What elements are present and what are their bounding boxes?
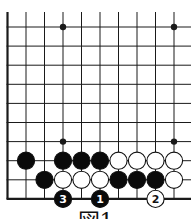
diagram-caption: 図1: [0, 211, 191, 219]
white-stone: [165, 171, 182, 188]
white-stone: [110, 152, 127, 169]
star-point-icon: [171, 24, 177, 30]
move-number: 2: [152, 193, 160, 206]
white-stone: [128, 152, 145, 169]
white-stone: [165, 152, 182, 169]
black-stone: [91, 152, 108, 169]
black-stone: [128, 171, 145, 188]
white-stone: [73, 171, 90, 188]
black-stone: 1: [91, 190, 108, 207]
white-stone: 2: [147, 190, 164, 207]
star-point-icon: [60, 24, 66, 30]
black-stone: [17, 152, 34, 169]
black-stone: [54, 152, 71, 169]
move-number: 3: [59, 193, 67, 206]
black-stone: [73, 152, 90, 169]
star-point-icon: [60, 138, 66, 144]
black-stone: [147, 171, 164, 188]
white-stone: [54, 171, 71, 188]
white-stone: [147, 152, 164, 169]
star-point-icon: [171, 138, 177, 144]
black-stone: [110, 171, 127, 188]
move-number: 1: [96, 193, 104, 206]
go-board: 312: [0, 0, 191, 219]
white-stone: [91, 171, 108, 188]
black-stone: 3: [54, 190, 71, 207]
black-stone: [36, 171, 53, 188]
